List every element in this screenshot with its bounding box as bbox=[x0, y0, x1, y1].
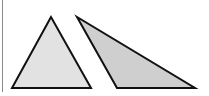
diagram-frame bbox=[0, 0, 209, 96]
triangles-canvas bbox=[0, 0, 209, 96]
left-triangle bbox=[12, 17, 91, 88]
right-triangle bbox=[77, 17, 195, 88]
